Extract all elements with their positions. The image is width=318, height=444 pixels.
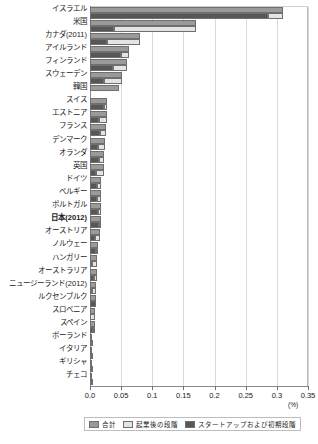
segment-post-startup — [98, 209, 100, 215]
category-label: 英国 — [1, 162, 87, 171]
segment-startup-early — [90, 222, 99, 228]
category-label: ドイツ — [1, 175, 87, 184]
segment-post-startup — [113, 65, 127, 71]
segment-startup-early — [90, 39, 107, 45]
segment-startup-early — [90, 196, 97, 202]
segment-post-startup — [94, 275, 96, 281]
legend-swatch — [123, 421, 133, 428]
segment-startup-early — [90, 26, 114, 32]
x-tick — [183, 386, 184, 390]
category-label: ギリシャ — [1, 358, 87, 367]
x-tick — [215, 386, 216, 390]
segment-startup-early — [90, 144, 98, 150]
category-label: スロベニア — [1, 306, 87, 315]
bar-row: チェコ — [0, 373, 318, 386]
bar-rows: イスラエル米国カナダ(2011)アイルランドフィンランドスウェーデン韓国スイスエ… — [0, 0, 318, 444]
legend-swatch — [89, 421, 99, 428]
category-label: フランス — [1, 122, 87, 131]
segment-post-startup — [92, 261, 97, 267]
segment-post-startup — [99, 157, 105, 163]
segment-post-startup — [268, 13, 284, 19]
segment-post-startup — [90, 314, 95, 320]
segment-startup-early — [90, 157, 99, 163]
legend-label: スタートアップおよび初期段階 — [198, 421, 296, 428]
category-label: エストニア — [1, 109, 87, 118]
segment-post-startup — [91, 340, 93, 346]
segment-startup-early — [90, 209, 98, 215]
category-label: ニュージーランド(2012) — [1, 280, 87, 288]
category-label: フィンランド — [1, 57, 87, 66]
legend-item[interactable]: スタートアップおよび初期段階 — [185, 421, 296, 428]
x-tick — [152, 386, 153, 390]
segment-startup-early — [90, 65, 113, 71]
category-label: アイルランド — [1, 44, 87, 53]
x-tick — [246, 386, 247, 390]
segment-post-startup — [114, 26, 196, 32]
category-label: オランダ — [1, 149, 87, 158]
x-tick — [121, 386, 122, 390]
category-label: スペイン — [1, 319, 87, 328]
segment-post-startup — [97, 183, 101, 189]
segment-post-startup — [91, 379, 93, 385]
segment-startup-early — [90, 117, 99, 123]
legend-swatch — [185, 421, 195, 428]
category-label: ルクセンブルク — [1, 293, 87, 302]
segment-startup-early — [90, 104, 104, 110]
category-label: オーストラリア — [1, 267, 87, 276]
segment-startup-early — [90, 183, 97, 189]
chart-legend: 合計起業後の段階スタートアップおよび初期段階 — [84, 417, 301, 431]
x-tick — [308, 386, 309, 390]
category-label: チェコ — [1, 371, 87, 380]
segment-post-startup — [93, 327, 95, 333]
segment-post-startup — [91, 353, 93, 359]
category-label: オーストリア — [1, 227, 87, 236]
category-label: 米国 — [1, 18, 87, 27]
segment-startup-early — [90, 130, 100, 136]
segment-post-startup — [96, 170, 103, 176]
category-label: ベルギー — [1, 188, 87, 197]
segment-post-startup — [107, 39, 139, 45]
category-label: イタリア — [1, 345, 87, 354]
bar-total — [90, 85, 119, 91]
x-tick-label: 0.35 — [288, 391, 318, 400]
x-tick — [277, 386, 278, 390]
x-tick — [90, 386, 91, 390]
axis-unit-label: (%) — [288, 401, 298, 408]
segment-post-startup — [104, 104, 108, 110]
segment-startup-early — [90, 78, 104, 84]
category-label: カナダ(2011) — [1, 31, 87, 40]
segment-post-startup — [96, 248, 98, 254]
category-label: スイス — [1, 96, 87, 105]
segment-post-startup — [121, 52, 129, 58]
segment-startup-early — [90, 13, 268, 19]
category-label: ポーランド — [1, 332, 87, 341]
category-label: イスラエル — [1, 5, 87, 14]
category-label: ポルトガル — [1, 201, 87, 210]
category-label: デンマーク — [1, 136, 87, 145]
segment-post-startup — [99, 117, 106, 123]
legend-label: 起業後の段階 — [136, 421, 178, 428]
segment-post-startup — [104, 78, 122, 84]
legend-label: 合計 — [102, 421, 116, 428]
segment-post-startup — [95, 235, 100, 241]
chart-root: イスラエル米国カナダ(2011)アイルランドフィンランドスウェーデン韓国スイスエ… — [0, 0, 318, 444]
segment-post-startup — [91, 366, 93, 372]
segment-post-startup — [97, 196, 101, 202]
category-label: ノルウェー — [1, 240, 87, 249]
category-label: スウェーデン — [1, 70, 87, 79]
segment-startup-early — [90, 301, 96, 307]
segment-post-startup — [100, 130, 106, 136]
segment-startup-early — [90, 52, 121, 58]
legend-item[interactable]: 起業後の段階 — [123, 421, 178, 428]
segment-post-startup — [99, 222, 101, 228]
segment-post-startup — [98, 144, 105, 150]
segment-post-startup — [92, 288, 96, 294]
category-label: 韓国 — [1, 83, 87, 92]
category-label: 日本(2012) — [1, 214, 87, 223]
category-label: ハンガリー — [1, 254, 87, 263]
legend-item[interactable]: 合計 — [89, 421, 116, 428]
